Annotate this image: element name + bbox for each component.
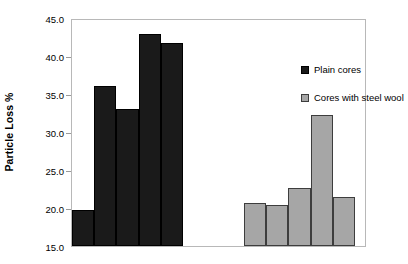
legend-label: Plain cores	[314, 64, 361, 75]
y-axis-tick-mark	[66, 57, 71, 58]
y-axis-tick-mark	[66, 171, 71, 172]
bar	[266, 205, 288, 246]
legend-swatch-icon	[301, 94, 309, 102]
y-axis-tick-mark	[66, 209, 71, 210]
bar	[72, 210, 94, 246]
y-axis-tick-mark	[66, 133, 71, 134]
bar	[311, 115, 333, 246]
legend-label: Cores with steel wool	[314, 92, 404, 103]
y-axis-tick-label: 45.0	[26, 14, 64, 25]
bar	[333, 197, 355, 246]
bar	[244, 203, 266, 246]
legend-entry: Cores with steel wool	[301, 92, 408, 103]
y-axis-tick-label: 30.0	[26, 128, 64, 139]
chart-legend: Plain coresCores with steel wool	[301, 64, 408, 120]
bar	[161, 43, 183, 246]
y-axis-tick-label: 25.0	[26, 166, 64, 177]
plot-frame: Plain coresCores with steel wool	[71, 19, 366, 247]
y-axis-title: Particle Loss %	[0, 0, 18, 264]
y-axis-tick-label: 35.0	[26, 90, 64, 101]
legend-entry: Plain cores	[301, 64, 408, 75]
y-axis-tick-label: 20.0	[26, 204, 64, 215]
bar	[116, 109, 138, 246]
y-axis-tick-label: 40.0	[26, 52, 64, 63]
y-axis-tick-labels: 45.040.035.030.025.020.015.0	[26, 0, 64, 264]
bar	[288, 188, 310, 246]
plot-area	[72, 20, 365, 246]
bar	[94, 86, 116, 246]
y-axis-tick-mark	[66, 95, 71, 96]
legend-swatch-icon	[301, 66, 309, 74]
bar	[139, 34, 161, 246]
y-axis-tick-label: 15.0	[26, 242, 64, 253]
